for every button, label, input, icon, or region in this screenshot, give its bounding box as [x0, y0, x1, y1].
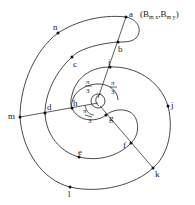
label-e: e — [78, 147, 82, 157]
label-a: a — [129, 9, 133, 19]
label-h: h — [73, 98, 78, 108]
svg-text:π: π — [111, 79, 115, 87]
ray-to-k — [100, 106, 153, 168]
label-m: m — [8, 111, 15, 121]
svg-text:π: π — [83, 107, 87, 115]
point-m — [19, 116, 22, 119]
arm-c-d-e — [45, 42, 131, 159]
label-j: j — [170, 100, 174, 110]
arm-n-m-l — [20, 16, 153, 189]
svg-text:3: 3 — [86, 87, 90, 95]
angle-label-lower: π 3 — [83, 107, 92, 125]
spiral-diagram: a b c d e f g h i j k l m n (Bm x,Bm y) … — [0, 0, 195, 205]
svg-text:3: 3 — [88, 117, 92, 125]
label-g: g — [109, 113, 114, 123]
svg-text:3: 3 — [111, 88, 115, 96]
point-g — [105, 114, 108, 117]
loop-a-b — [118, 17, 139, 42]
svg-text:(Bm x,Bm y): (Bm x,Bm y) — [140, 9, 179, 20]
label-f: f — [123, 140, 126, 150]
label-k: k — [155, 169, 160, 179]
label-d: d — [47, 102, 52, 112]
point-f — [130, 142, 133, 145]
angle-label-upper-left: π 3 — [85, 78, 92, 95]
label-n: n — [53, 22, 58, 32]
label-c: c — [73, 59, 77, 69]
label-b: b — [118, 44, 123, 54]
point-j — [167, 105, 170, 108]
label-l: l — [68, 189, 71, 199]
annotation-a-coordinates: (Bm x,Bm y) — [140, 9, 179, 20]
svg-text:π: π — [86, 78, 90, 86]
inner-circle — [91, 94, 105, 108]
point-a — [125, 16, 128, 19]
